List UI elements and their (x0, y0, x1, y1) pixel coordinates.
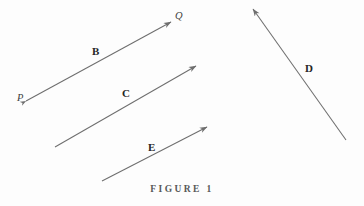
figure-container: B C D E P Q FIGURE 1 (0, 0, 364, 206)
vector-arrow-b (26, 22, 171, 101)
vector-diagram-canvas (0, 0, 364, 206)
vector-label-b: B (92, 46, 99, 57)
vector-arrow-d (253, 9, 346, 140)
vector-label-e: E (148, 142, 155, 153)
vector-label-c: C (122, 88, 130, 99)
vector-arrow-e (102, 127, 207, 181)
vector-label-d: D (305, 63, 313, 74)
figure-caption: FIGURE 1 (0, 184, 364, 194)
point-label-q: Q (175, 11, 183, 22)
vector-arrow-c (55, 66, 196, 147)
point-label-p: P (17, 93, 23, 104)
